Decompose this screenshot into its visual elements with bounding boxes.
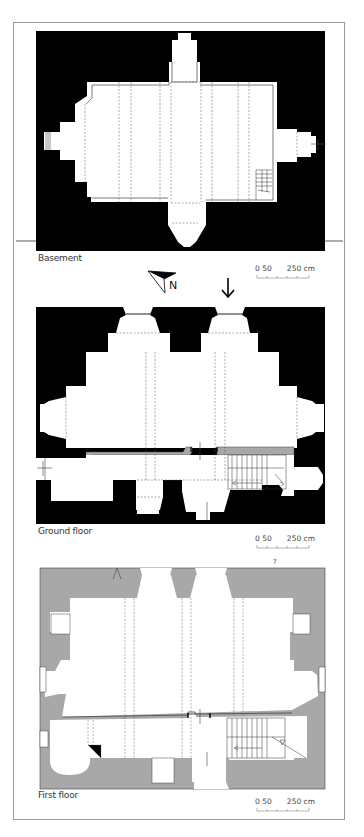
panel-label-ground-floor: Ground floor (38, 526, 92, 536)
basement-plan (16, 31, 343, 251)
scale-bar-first-floor: 0 50 250 cm (255, 797, 315, 815)
scale-bar-basement: 0 50 250 cm (255, 264, 315, 282)
ground-floor-plan (36, 307, 325, 524)
first-floor-plan (40, 568, 325, 789)
question-mark-annotation: ? (273, 558, 277, 566)
floor-plans-drawing (0, 0, 364, 837)
down-arrow-icon (222, 278, 234, 297)
scale-bar-ground-floor: 0 50 250 cm (255, 534, 315, 552)
north-label: N (169, 279, 177, 292)
panel-label-first-floor: First floor (38, 790, 78, 800)
panel-label-basement: Basement (38, 253, 82, 263)
